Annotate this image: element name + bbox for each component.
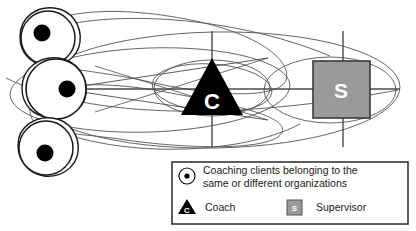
- legend-row-supervisor: S Supervisor: [287, 200, 367, 215]
- legend-clients-line-1: Coaching clients belonging to the: [203, 164, 358, 176]
- diagram-canvas: C S Coaching clients belonging to the sa…: [0, 0, 416, 231]
- legend-supervisor-label: Supervisor: [316, 201, 367, 213]
- connector-crossing-upper: [95, 58, 268, 112]
- supervisor-node[interactable]: S: [313, 61, 370, 118]
- connector-middle-to-upper: [62, 58, 268, 89]
- square-supervisor-icon-letter: S: [292, 204, 298, 213]
- legend-clients-line-2: same or different organizations: [203, 177, 347, 189]
- supervisor-letter: S: [334, 79, 348, 102]
- circle-dot-icon-center: [184, 173, 189, 178]
- legend-row-coach: C Coach: [178, 199, 236, 215]
- client-bottom-dot: [37, 145, 54, 162]
- client-top-dot: [34, 25, 51, 42]
- relationship-diagram: C S Coaching clients belonging to the sa…: [0, 0, 416, 231]
- client-middle-outline: [26, 59, 86, 119]
- legend: Coaching clients belonging to the same o…: [172, 162, 408, 224]
- triangle-coach-icon-letter: C: [184, 206, 190, 215]
- client-middle-dot: [59, 81, 76, 98]
- client-node-middle[interactable]: [22, 58, 86, 119]
- legend-coach-label: Coach: [205, 201, 236, 213]
- legend-row-clients: Coaching clients belonging to the same o…: [179, 164, 358, 189]
- client-node-bottom[interactable]: [18, 118, 78, 177]
- coach-letter: C: [204, 89, 220, 114]
